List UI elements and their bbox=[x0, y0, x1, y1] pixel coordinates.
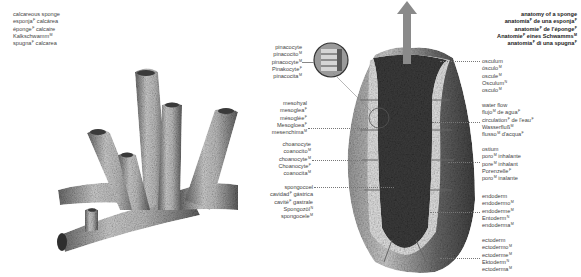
term-line: flussoM d'acquaF bbox=[482, 131, 534, 138]
term-line: OsculumN bbox=[482, 80, 507, 87]
label-endoderm: endodermendodermoMendodermeMEntodermNend… bbox=[482, 193, 514, 229]
sponge-cross-section-illustration bbox=[340, 0, 480, 277]
term-line: anatomiaF di una spugnaF bbox=[497, 40, 577, 47]
leader-ostium bbox=[448, 162, 480, 163]
term-line: cavitéF gastrale bbox=[270, 199, 313, 206]
term-line: spugnaF calcarea bbox=[13, 40, 60, 47]
term-line: flujoM de aguaF bbox=[482, 109, 534, 116]
term-line: ósculoM bbox=[482, 65, 507, 72]
term-line: épongeF calcaire bbox=[13, 26, 60, 33]
term-line: mésogléeF bbox=[272, 115, 307, 122]
inset-connector-line bbox=[330, 70, 380, 120]
term-line: ectodermaM bbox=[482, 266, 512, 273]
term-line: pinacocyteM bbox=[272, 59, 302, 66]
leader-water-flow bbox=[432, 122, 480, 123]
term-line: osculeM bbox=[482, 73, 507, 80]
term-line: osculum bbox=[482, 58, 507, 65]
term-line: coanocitoM bbox=[278, 148, 311, 155]
term-line: endodermaM bbox=[482, 222, 514, 229]
label-osculum: osculumósculoMosculeMOsculumNosculoM bbox=[482, 58, 507, 94]
term-line: mesohyal bbox=[272, 100, 307, 107]
term-line: pinacocyte bbox=[272, 44, 302, 51]
leader-pinacocyte bbox=[302, 62, 314, 63]
term-line: ChoanocyteF bbox=[278, 163, 311, 170]
leader-osculum bbox=[440, 61, 480, 62]
term-line: water flow bbox=[482, 102, 534, 109]
term-line: MesogloeaF bbox=[272, 122, 307, 129]
leader-spongocoel bbox=[314, 187, 394, 188]
term-line: endoderm bbox=[482, 193, 514, 200]
term-line: EntodermN bbox=[482, 215, 514, 222]
label-mesohyl: mesohyalmesogleaFmésogléeFMesogloeaFmese… bbox=[272, 100, 307, 136]
term-line: poroM inalante bbox=[482, 175, 521, 182]
term-line: pinacocitaM bbox=[272, 73, 302, 80]
term-line: poroM inhalante bbox=[482, 153, 521, 160]
label-ectoderm: ectodermectodermoMectodermeMEktodermNect… bbox=[482, 237, 512, 273]
label-choanocyte: choanocytecoanocitoMchoanocyteMChoanocyt… bbox=[278, 141, 311, 177]
term-line: AnatomieF eines SchwammsM bbox=[497, 33, 577, 40]
label-ostium: ostiumporoM inhalanteporeM inhalantPoren… bbox=[482, 146, 521, 182]
title-calcareous-sponge: calcareous spongeesponjaF calcáreaéponge… bbox=[13, 11, 60, 47]
term-line: ectodermoM bbox=[482, 244, 512, 251]
term-line: choanocyteM bbox=[278, 156, 311, 163]
term-line: PinakocyteF bbox=[272, 66, 302, 73]
term-line: anatomy of a sponge bbox=[497, 11, 577, 18]
term-line: SpongozölN bbox=[270, 206, 313, 213]
term-line: calcareous sponge bbox=[13, 11, 60, 18]
term-line: WasserflußM bbox=[482, 124, 534, 131]
label-spongocoel: spongocoelcavidadF gástricacavitéF gastr… bbox=[270, 184, 313, 220]
calcareous-sponge-illustration bbox=[40, 60, 240, 275]
label-water-flow: water flowflujoM de aguaFcirculationF de… bbox=[482, 102, 534, 138]
term-line: ectodermeM bbox=[482, 252, 512, 259]
term-line: mesogleaF bbox=[272, 107, 307, 114]
leader-ectoderm bbox=[440, 258, 480, 259]
term-line: anatomieF de l'épongeF bbox=[497, 26, 577, 33]
title-anatomy-of-a-sponge: anatomy of a spongeanatomíaF de una espo… bbox=[497, 11, 577, 47]
term-line: spongocoel bbox=[270, 184, 313, 191]
term-line: endodermeM bbox=[482, 208, 514, 215]
term-line: pinacocitoM bbox=[272, 51, 302, 58]
term-line: ectoderm bbox=[482, 237, 512, 244]
term-line: ostium bbox=[482, 146, 521, 153]
leader-endoderm bbox=[430, 212, 480, 213]
term-line: choanocyte bbox=[278, 141, 311, 148]
term-line: endodermoM bbox=[482, 200, 514, 207]
term-line: poreM inhalant bbox=[482, 161, 521, 168]
term-line: esponjaF calcárea bbox=[13, 18, 60, 25]
term-line: EktodermN bbox=[482, 259, 512, 266]
term-line: mesenchimaM bbox=[272, 129, 307, 136]
term-line: anatomíaF de una esponjaF bbox=[497, 18, 577, 25]
leader-choanocyte bbox=[312, 160, 362, 161]
leader-mesohyl bbox=[308, 128, 368, 129]
label-pinacocyte: pinacocytepinacocitoMpinacocyteMPinakocy… bbox=[272, 44, 302, 80]
term-line: PorenzelleF bbox=[482, 168, 521, 175]
term-line: cavidadF gástrica bbox=[270, 191, 313, 198]
term-line: KalkschwammM bbox=[13, 33, 60, 40]
term-line: circulationF de l'eauF bbox=[482, 117, 534, 124]
term-line: spongoceleM bbox=[270, 213, 313, 220]
term-line: osculoM bbox=[482, 87, 507, 94]
term-line: coanocitaM bbox=[278, 170, 311, 177]
